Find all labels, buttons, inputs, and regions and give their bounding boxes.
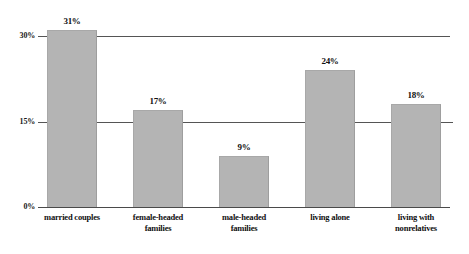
category-label-living-alone: living alone xyxy=(292,212,368,223)
bar-female-headed-families[interactable] xyxy=(133,110,183,207)
ytick-label-15: 15% xyxy=(8,117,35,126)
gridline-15-segment-b xyxy=(441,122,453,123)
gridline-30 xyxy=(47,36,450,37)
category-label-female-headed-families: female-headed families xyxy=(120,212,196,234)
ytick-dash-30 xyxy=(38,36,47,37)
bar-married-couples[interactable] xyxy=(47,30,97,207)
value-label-married-couples: 31% xyxy=(47,16,97,26)
value-label-living-alone: 24% xyxy=(305,56,355,66)
category-label-living-with-nonrelatives: living with nonrelatives xyxy=(378,212,454,234)
bar-living-with-nonrelatives[interactable] xyxy=(391,104,441,207)
bar-chart: 30% 15% 0% 31% 17% 9% 24% 18% married co… xyxy=(0,0,469,254)
bar-living-alone[interactable] xyxy=(305,70,355,207)
value-label-male-headed-families: 9% xyxy=(219,142,269,152)
ytick-dash-15 xyxy=(38,122,47,123)
axis-baseline xyxy=(38,207,450,208)
category-label-male-headed-families: male-headed families xyxy=(206,212,282,234)
category-label-married-couples: married couples xyxy=(34,212,110,223)
value-label-living-with-nonrelatives: 18% xyxy=(391,90,441,100)
value-label-female-headed-families: 17% xyxy=(133,96,183,106)
ytick-label-0: 0% xyxy=(8,202,35,211)
plot-area: 30% 15% 0% 31% 17% 9% 24% 18% married co… xyxy=(0,0,469,254)
ytick-label-30: 30% xyxy=(8,31,35,40)
bar-male-headed-families[interactable] xyxy=(219,156,269,207)
